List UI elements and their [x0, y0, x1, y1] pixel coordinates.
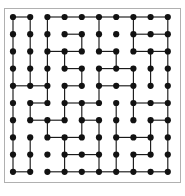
- figure-root: 6.: [0, 0, 185, 196]
- lattice-node: [113, 83, 119, 89]
- lattice-node: [44, 134, 50, 140]
- lattice-node: [148, 83, 154, 89]
- lattice-node: [165, 117, 171, 123]
- lattice-node: [130, 134, 136, 140]
- lattice-node: [10, 117, 16, 123]
- lattice-node: [44, 152, 50, 158]
- lattice-node: [96, 83, 102, 89]
- lattice-node: [130, 117, 136, 123]
- lattice-diagram: [5, 9, 180, 182]
- lattice-node: [113, 31, 119, 37]
- lattice-node: [113, 169, 119, 175]
- lattice-node: [10, 134, 16, 140]
- lattice-node: [130, 100, 136, 106]
- lattice-node: [79, 48, 85, 54]
- lattice-node: [96, 48, 102, 54]
- lattice-node: [27, 152, 33, 158]
- lattice-node: [165, 134, 171, 140]
- lattice-node: [165, 100, 171, 106]
- lattice-node: [27, 48, 33, 54]
- lattice-node: [10, 83, 16, 89]
- lattice-node: [44, 83, 50, 89]
- lattice-node: [130, 14, 136, 20]
- edge-layer: [13, 17, 168, 172]
- lattice-node: [148, 14, 154, 20]
- lattice-plot-frame: [4, 8, 181, 183]
- lattice-node: [44, 31, 50, 37]
- lattice-node: [79, 117, 85, 123]
- lattice-node: [10, 169, 16, 175]
- lattice-node: [27, 31, 33, 37]
- lattice-node: [113, 48, 119, 54]
- lattice-node: [96, 152, 102, 158]
- lattice-node: [62, 117, 68, 123]
- lattice-node: [165, 31, 171, 37]
- lattice-node: [79, 134, 85, 140]
- lattice-node: [165, 66, 171, 72]
- lattice-node: [130, 66, 136, 72]
- lattice-node: [165, 83, 171, 89]
- lattice-node: [96, 100, 102, 106]
- lattice-node: [44, 100, 50, 106]
- lattice-node: [96, 134, 102, 140]
- lattice-node: [27, 169, 33, 175]
- lattice-node: [130, 169, 136, 175]
- lattice-node: [148, 169, 154, 175]
- lattice-node: [27, 14, 33, 20]
- lattice-node: [10, 66, 16, 72]
- lattice-node: [130, 83, 136, 89]
- lattice-node: [165, 14, 171, 20]
- lattice-node: [44, 48, 50, 54]
- lattice-node: [113, 14, 119, 20]
- lattice-node: [79, 169, 85, 175]
- lattice-node: [79, 152, 85, 158]
- lattice-node: [148, 152, 154, 158]
- lattice-node: [62, 14, 68, 20]
- lattice-node: [62, 134, 68, 140]
- lattice-node: [62, 83, 68, 89]
- lattice-node: [44, 117, 50, 123]
- lattice-node: [62, 100, 68, 106]
- lattice-node: [79, 100, 85, 106]
- lattice-node: [130, 152, 136, 158]
- lattice-node: [165, 48, 171, 54]
- lattice-node: [148, 48, 154, 54]
- lattice-node: [79, 83, 85, 89]
- lattice-node: [96, 66, 102, 72]
- lattice-node: [113, 117, 119, 123]
- lattice-node: [96, 169, 102, 175]
- node-layer: [10, 14, 171, 175]
- lattice-node: [27, 66, 33, 72]
- lattice-node: [113, 66, 119, 72]
- lattice-node: [130, 31, 136, 37]
- lattice-node: [148, 100, 154, 106]
- lattice-node: [44, 66, 50, 72]
- lattice-node: [27, 134, 33, 140]
- lattice-node: [79, 66, 85, 72]
- lattice-node: [10, 31, 16, 37]
- lattice-node: [10, 14, 16, 20]
- lattice-node: [79, 14, 85, 20]
- lattice-node: [165, 169, 171, 175]
- lattice-node: [165, 152, 171, 158]
- figure-caption-cropped: 6.: [0, 0, 24, 6]
- lattice-node: [96, 117, 102, 123]
- lattice-node: [10, 152, 16, 158]
- lattice-node: [27, 83, 33, 89]
- lattice-node: [62, 31, 68, 37]
- lattice-node: [27, 100, 33, 106]
- lattice-node: [62, 48, 68, 54]
- lattice-node: [113, 152, 119, 158]
- lattice-node: [10, 100, 16, 106]
- lattice-node: [79, 31, 85, 37]
- lattice-node: [62, 169, 68, 175]
- lattice-node: [148, 134, 154, 140]
- lattice-node: [44, 14, 50, 20]
- lattice-node: [27, 117, 33, 123]
- lattice-node: [148, 31, 154, 37]
- lattice-node: [96, 14, 102, 20]
- lattice-node: [44, 169, 50, 175]
- lattice-node: [113, 134, 119, 140]
- lattice-node: [113, 100, 119, 106]
- lattice-node: [96, 31, 102, 37]
